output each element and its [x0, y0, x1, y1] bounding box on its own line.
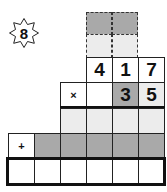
multiplicand-digit: 7 [138, 57, 165, 83]
partial1-cell[interactable] [138, 108, 165, 134]
carry-cell-top-2[interactable] [112, 12, 138, 35]
partial2-cell[interactable] [86, 133, 113, 159]
partial1-cell[interactable] [60, 108, 87, 134]
carry-cell-bottom-1[interactable] [86, 34, 112, 58]
partial1-cell[interactable] [86, 108, 113, 134]
carry-cell-bottom-2[interactable] [112, 34, 138, 58]
plus-operator: + [8, 133, 35, 159]
partial2-cell[interactable] [34, 133, 61, 159]
carry-cell-top-1[interactable] [86, 12, 112, 35]
multiplier-digit: 3 [112, 82, 139, 108]
multiplicand-digit: 4 [86, 57, 113, 83]
partial2-cell[interactable] [112, 133, 139, 159]
partial2-cell[interactable] [138, 133, 165, 159]
answer-row-frame [6, 157, 166, 186]
problem-number: 8 [9, 18, 39, 48]
multiplier-digit: 5 [138, 82, 165, 108]
multiply-operator: × [60, 82, 87, 108]
multiplier-cell [86, 82, 113, 108]
partial2-cell[interactable] [60, 133, 87, 159]
multiplicand-digit: 1 [112, 57, 139, 83]
partial1-cell[interactable] [112, 108, 139, 134]
